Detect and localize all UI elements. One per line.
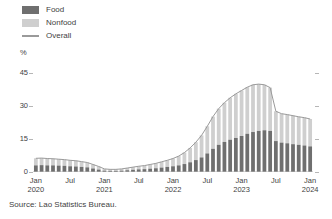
bar-segment-nonfood (200, 135, 204, 157)
bar-segment-nonfood (217, 109, 221, 145)
bar-segment-nonfood (80, 162, 84, 167)
bar-segment-nonfood (228, 98, 232, 140)
source-note: Source: Lao Statistics Bureau. (9, 200, 117, 209)
bar-segment-food (274, 141, 278, 172)
bar-segment-nonfood (280, 114, 284, 143)
bar-segment-nonfood (45, 159, 49, 166)
bar-segment-food (85, 167, 89, 172)
x-axis-tick-year: 2021 (84, 186, 124, 195)
bar-segment-food (200, 157, 204, 172)
bar-segment-food (171, 166, 175, 172)
bar-segment-food (40, 165, 44, 172)
legend-line-overall (22, 32, 39, 40)
inflation-chart-figure: Food Nonfood Overall % 0153045 Jan2020Ju… (0, 0, 332, 219)
bar-segment-nonfood (40, 158, 44, 165)
bar-segment-food (63, 166, 67, 172)
bar-segment-nonfood (251, 85, 255, 132)
bar-segment-food (177, 165, 181, 172)
bar-segment-food (297, 145, 301, 172)
bar-segment-food (205, 153, 209, 172)
bar-segment-food (263, 130, 267, 172)
bar-segment-food (45, 165, 49, 172)
bar-segment-food (285, 143, 289, 172)
bar-segment-food (80, 167, 84, 172)
bar-segment-food (160, 168, 164, 172)
legend-label-food: Food (46, 6, 64, 14)
y-axis-unit-label: % (20, 48, 27, 57)
bar-segment-nonfood (51, 159, 55, 166)
bar-segment-nonfood (165, 160, 169, 167)
bar-segment-nonfood (205, 126, 209, 153)
y-axis-tick-label: 15 (10, 135, 28, 143)
bar-segment-nonfood (291, 116, 295, 144)
bar-segment-food (165, 167, 169, 172)
bar-segment-food (57, 166, 61, 172)
x-axis-tick-year: 2020 (16, 186, 56, 195)
bar-segment-nonfood (194, 142, 198, 160)
x-axis-tick-year: 2024 (290, 186, 330, 195)
bar-segment-nonfood (183, 153, 187, 164)
bar-segment-food (228, 140, 232, 172)
bar-segment-nonfood (68, 160, 72, 166)
y-axis-tick-label: 45 (10, 69, 28, 77)
bar-segment-food (308, 146, 312, 172)
x-axis-tick-label: Jan2024 (290, 177, 330, 194)
bar-segment-nonfood (177, 156, 181, 165)
bar-segment-nonfood (57, 159, 61, 165)
bar-segment-food (91, 168, 95, 172)
legend-swatch-food (22, 6, 39, 14)
legend-item-overall: Overall (22, 30, 162, 42)
bar-segment-food (74, 166, 78, 172)
y-axis-tick-mark-right (315, 73, 319, 74)
bar-segment-food (51, 165, 55, 172)
legend-item-food: Food (22, 4, 162, 16)
bar-segment-nonfood (34, 158, 38, 165)
bar-segment-nonfood (188, 148, 192, 162)
bar-segment-food (257, 131, 261, 172)
bar-segment-food (245, 134, 249, 172)
chart-legend: Food Nonfood Overall (22, 4, 162, 43)
legend-swatch-nonfood (22, 19, 39, 27)
bar-segment-nonfood (223, 103, 227, 142)
bar-segment-nonfood (263, 85, 267, 130)
bar-segment-nonfood (171, 159, 175, 167)
bar-segment-food (303, 146, 307, 173)
bar-segment-food (291, 144, 295, 172)
bar-segment-nonfood (63, 160, 67, 166)
y-axis-tick-mark (29, 106, 33, 107)
bar-segment-nonfood (240, 91, 244, 136)
bar-segment-food (217, 145, 221, 172)
bar-segment-food (183, 164, 187, 172)
bar-segment-food (34, 165, 38, 172)
y-axis-tick-mark (29, 172, 33, 173)
bar-segment-food (251, 132, 255, 172)
bar-segment-nonfood (211, 117, 215, 149)
bar-segment-food (211, 149, 215, 172)
bar-segment-food (223, 142, 227, 172)
y-axis-tick-label: 30 (10, 102, 28, 110)
y-axis-tick-mark (29, 73, 33, 74)
plot-area (33, 66, 313, 172)
legend-label-overall: Overall (46, 32, 71, 40)
y-axis-tick-mark-right (315, 172, 319, 173)
bar-segment-nonfood (74, 161, 78, 167)
bar-segment-nonfood (297, 117, 301, 145)
bar-segment-food (234, 138, 238, 172)
bar-segment-nonfood (257, 84, 261, 131)
bar-segment-nonfood (234, 94, 238, 138)
bar-segment-food (68, 166, 72, 172)
bar-segment-food (240, 136, 244, 172)
bar-segment-nonfood (308, 119, 312, 146)
bar-segment-food (194, 160, 198, 172)
bar-segment-nonfood (285, 115, 289, 144)
bar-segment-nonfood (245, 87, 249, 134)
bar-segment-food (268, 131, 272, 172)
bar-segment-food (188, 162, 192, 172)
chart-svg (33, 66, 313, 172)
bar-segment-nonfood (303, 118, 307, 146)
x-axis-tick-year: 2023 (222, 186, 262, 195)
y-axis-tick-mark-right (315, 139, 319, 140)
y-axis-tick-mark (29, 139, 33, 140)
bar-segment-food (154, 168, 158, 172)
x-axis-tick-year: 2022 (153, 186, 193, 195)
